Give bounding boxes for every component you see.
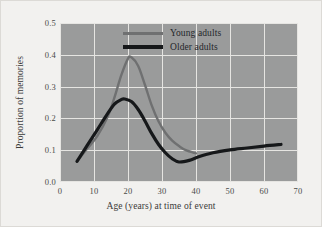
x-axis-title: Age (years) at time of event xyxy=(1,201,321,211)
x-axis-tick-label: 30 xyxy=(158,186,167,196)
y-axis-tick-label: 0.3 xyxy=(45,82,56,92)
legend-item-older-adults: Older adults xyxy=(123,42,221,52)
legend-swatch-older-adults xyxy=(123,45,163,49)
y-axis-tick-label: 0.1 xyxy=(45,145,56,155)
series-line-older-adults xyxy=(77,99,281,162)
x-axis-tick-label: 40 xyxy=(192,186,201,196)
legend-label-older-adults: Older adults xyxy=(170,42,218,52)
chart-legend: Young adults Older adults xyxy=(123,28,221,52)
x-axis-tick-label: 60 xyxy=(260,186,269,196)
x-axis-tick-label: 0 xyxy=(58,186,62,196)
x-axis-tick-label: 50 xyxy=(226,186,235,196)
legend-label-young-adults: Young adults xyxy=(170,28,221,38)
legend-swatch-young-adults xyxy=(123,32,163,35)
x-axis-tick-label: 10 xyxy=(90,186,99,196)
x-axis-tick-label: 20 xyxy=(124,186,133,196)
y-axis-tick-label: 0.5 xyxy=(45,18,56,28)
chart-figure: 0.00.10.20.30.40.5 Proportion of memorie… xyxy=(0,0,322,227)
y-axis-tick-label: 0.2 xyxy=(45,113,56,123)
x-axis-tick-label: 70 xyxy=(294,186,303,196)
y-axis-tick-label: 0.4 xyxy=(45,50,56,60)
y-axis-tick-label: 0.0 xyxy=(45,177,56,187)
x-axis-tick-labels: 010203040506070 xyxy=(60,186,298,200)
y-axis-title: Proportion of memories xyxy=(15,23,29,182)
legend-item-young-adults: Young adults xyxy=(123,28,221,38)
